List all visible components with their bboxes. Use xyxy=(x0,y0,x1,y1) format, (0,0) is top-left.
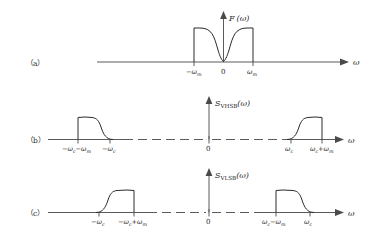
panel-c-tag: （c） xyxy=(26,209,44,218)
panel-a-y-title-arg: (ω) xyxy=(237,14,250,23)
svg-text:F(ω): F(ω) xyxy=(228,14,249,23)
panel-b-tag: （b） xyxy=(26,136,45,145)
panel-c-ticklabel-zero: 0 xyxy=(206,218,210,226)
panel-a-tag: （a） xyxy=(26,59,44,68)
panel-a-y-axis-title: F(ω) xyxy=(228,14,249,23)
figure-vsb-spectra: （a） ω F(ω) −ωm 0 ωm （b） xyxy=(0,0,383,243)
panel-b-x-axis-label: ω xyxy=(348,136,355,145)
panel-c-x-axis-label: ω xyxy=(348,209,355,218)
panel-a-x-axis-label: ω xyxy=(353,58,360,67)
panel-a-y-title-main: F xyxy=(228,14,235,23)
panel-b-ticklabel-zero: 0 xyxy=(206,145,210,153)
panel-a-ticklabel-zero: 0 xyxy=(221,68,225,76)
figure-background xyxy=(0,0,383,243)
vsb-spectra-svg: （a） ω F(ω) −ωm 0 ωm （b） xyxy=(0,0,383,243)
